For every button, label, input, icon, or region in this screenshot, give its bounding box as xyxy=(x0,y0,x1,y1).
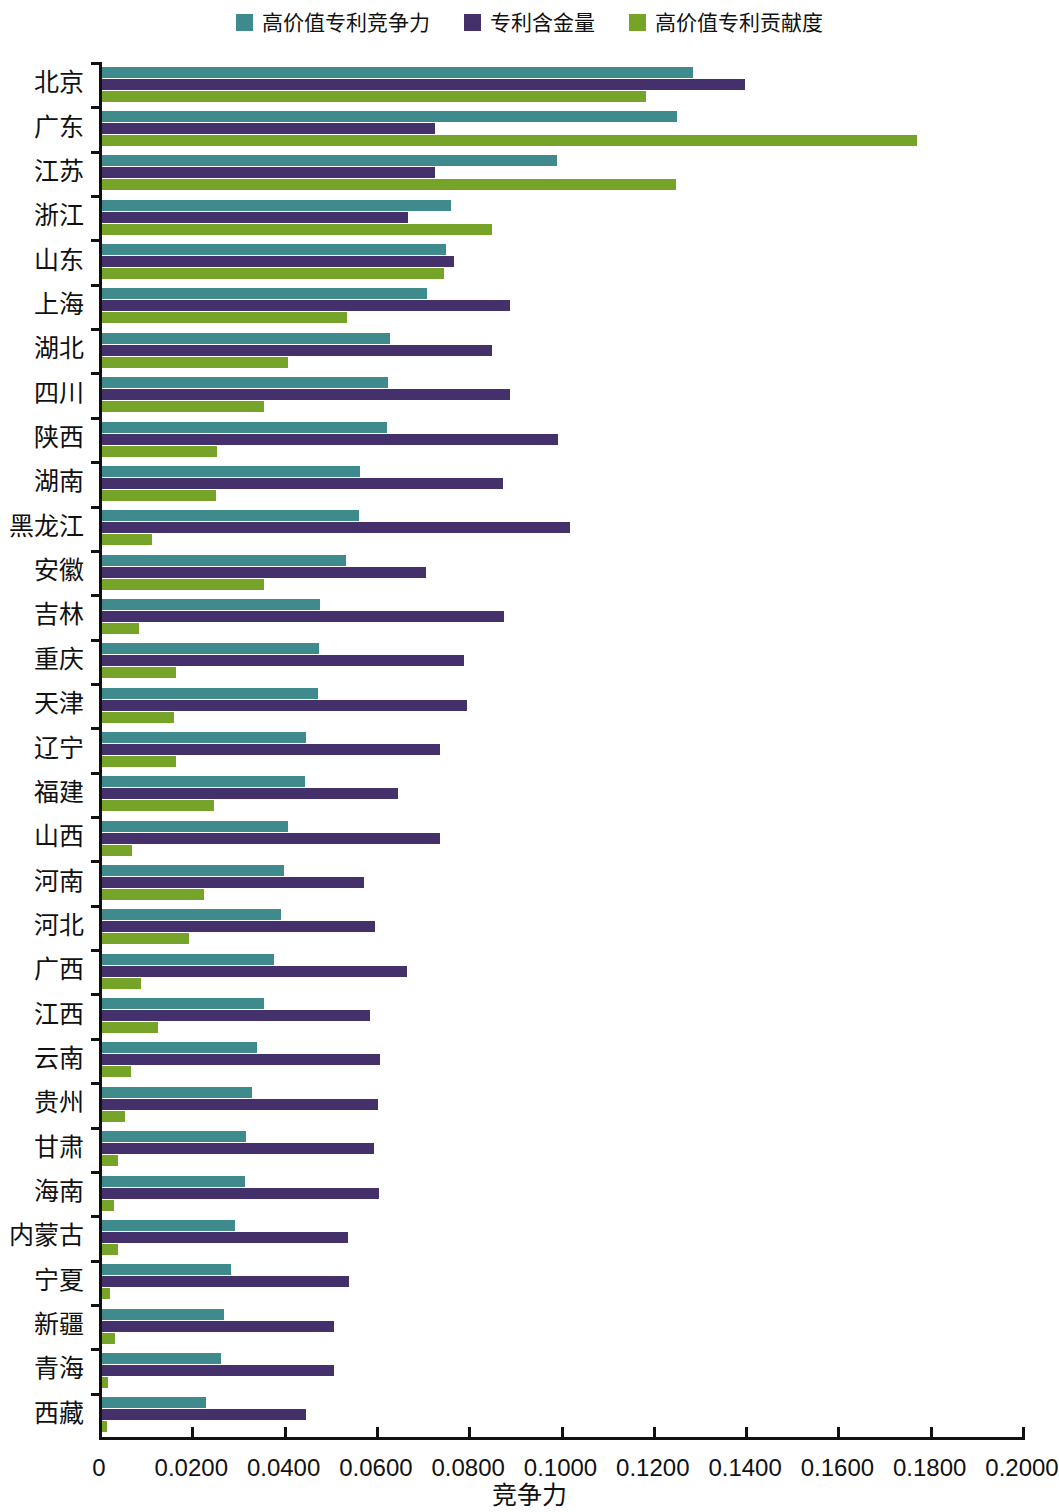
bar[interactable] xyxy=(102,357,288,368)
bar[interactable] xyxy=(102,510,359,521)
bar[interactable] xyxy=(102,998,264,1009)
legend-entry[interactable]: 专利含金量 xyxy=(464,12,595,33)
bar[interactable] xyxy=(102,1264,231,1275)
x-axis-right-cap xyxy=(1022,1427,1025,1440)
bar[interactable] xyxy=(102,212,408,223)
bar[interactable] xyxy=(102,877,364,888)
bar[interactable] xyxy=(102,522,570,533)
bar[interactable] xyxy=(102,655,464,666)
bar[interactable] xyxy=(102,1099,378,1110)
bar[interactable] xyxy=(102,111,677,122)
bar[interactable] xyxy=(102,123,435,134)
bar[interactable] xyxy=(102,1244,118,1255)
bar-group xyxy=(102,244,1022,279)
bar[interactable] xyxy=(102,1176,245,1187)
bar[interactable] xyxy=(102,1276,349,1287)
bar[interactable] xyxy=(102,611,504,622)
bar[interactable] xyxy=(102,623,139,634)
bar[interactable] xyxy=(102,865,284,876)
bar[interactable] xyxy=(102,800,214,811)
bar[interactable] xyxy=(102,1397,206,1408)
bar[interactable] xyxy=(102,1143,374,1154)
bar[interactable] xyxy=(102,1232,348,1243)
bar[interactable] xyxy=(102,1042,257,1053)
bar[interactable] xyxy=(102,534,152,545)
bar[interactable] xyxy=(102,909,281,920)
bar[interactable] xyxy=(102,300,510,311)
bar[interactable] xyxy=(102,579,264,590)
bar[interactable] xyxy=(102,312,347,323)
bar[interactable] xyxy=(102,1188,379,1199)
bar[interactable] xyxy=(102,744,440,755)
bar[interactable] xyxy=(102,776,305,787)
bar[interactable] xyxy=(102,1087,252,1098)
bar[interactable] xyxy=(102,155,557,166)
bar[interactable] xyxy=(102,889,204,900)
bar[interactable] xyxy=(102,567,426,578)
bar[interactable] xyxy=(102,1111,125,1122)
bar[interactable] xyxy=(102,67,693,78)
bar[interactable] xyxy=(102,389,510,400)
bar[interactable] xyxy=(102,688,318,699)
bar[interactable] xyxy=(102,79,745,90)
bar[interactable] xyxy=(102,1220,235,1231)
bar[interactable] xyxy=(102,1309,224,1320)
bar[interactable] xyxy=(102,1421,107,1432)
bar[interactable] xyxy=(102,268,444,279)
legend-entry[interactable]: 高价值专利贡献度 xyxy=(629,12,823,33)
bar[interactable] xyxy=(102,1288,110,1299)
bar[interactable] xyxy=(102,700,467,711)
bar[interactable] xyxy=(102,135,917,146)
bar[interactable] xyxy=(102,1333,115,1344)
bar[interactable] xyxy=(102,256,454,267)
bar[interactable] xyxy=(102,1200,114,1211)
bar[interactable] xyxy=(102,921,375,932)
y-axis-label: 江苏 xyxy=(0,159,88,184)
bar[interactable] xyxy=(102,466,360,477)
bar[interactable] xyxy=(102,1377,108,1388)
bar[interactable] xyxy=(102,555,346,566)
bar[interactable] xyxy=(102,1131,246,1142)
bar[interactable] xyxy=(102,933,189,944)
bar[interactable] xyxy=(102,422,387,433)
bar[interactable] xyxy=(102,966,407,977)
bar[interactable] xyxy=(102,1010,370,1021)
bar[interactable] xyxy=(102,1353,221,1364)
bar[interactable] xyxy=(102,756,176,767)
bar[interactable] xyxy=(102,1054,380,1065)
bar[interactable] xyxy=(102,1066,131,1077)
bar[interactable] xyxy=(102,599,320,610)
bar[interactable] xyxy=(102,446,217,457)
bar[interactable] xyxy=(102,288,427,299)
bar[interactable] xyxy=(102,1321,334,1332)
bar[interactable] xyxy=(102,478,503,489)
bar[interactable] xyxy=(102,345,492,356)
bar[interactable] xyxy=(102,490,216,501)
bar[interactable] xyxy=(102,954,274,965)
legend-entry[interactable]: 高价值专利竞争力 xyxy=(236,12,430,33)
bar[interactable] xyxy=(102,377,388,388)
bar[interactable] xyxy=(102,401,264,412)
bar[interactable] xyxy=(102,1155,118,1166)
bar[interactable] xyxy=(102,244,446,255)
bar[interactable] xyxy=(102,833,440,844)
bar[interactable] xyxy=(102,667,176,678)
bar[interactable] xyxy=(102,1022,158,1033)
bar[interactable] xyxy=(102,732,306,743)
bar[interactable] xyxy=(102,1409,306,1420)
bar[interactable] xyxy=(102,712,174,723)
bar[interactable] xyxy=(102,167,435,178)
bar[interactable] xyxy=(102,91,646,102)
bar[interactable] xyxy=(102,200,451,211)
bar[interactable] xyxy=(102,434,558,445)
bar[interactable] xyxy=(102,333,390,344)
bar[interactable] xyxy=(102,224,492,235)
bar[interactable] xyxy=(102,179,676,190)
bar[interactable] xyxy=(102,821,288,832)
bar[interactable] xyxy=(102,788,398,799)
bar[interactable] xyxy=(102,978,141,989)
bar-group xyxy=(102,200,1022,235)
bar[interactable] xyxy=(102,845,132,856)
bar[interactable] xyxy=(102,1365,334,1376)
bar[interactable] xyxy=(102,643,319,654)
